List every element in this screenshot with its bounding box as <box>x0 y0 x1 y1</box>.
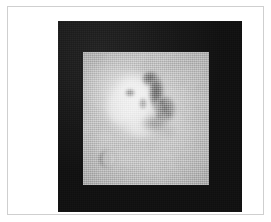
photograph-canvas <box>83 52 209 185</box>
photo-mount <box>58 21 242 212</box>
figure-page: Grayscale orbital photograph of a light … <box>0 0 271 222</box>
film-grain <box>83 52 209 185</box>
photograph <box>83 52 209 185</box>
figure-border <box>7 6 264 215</box>
